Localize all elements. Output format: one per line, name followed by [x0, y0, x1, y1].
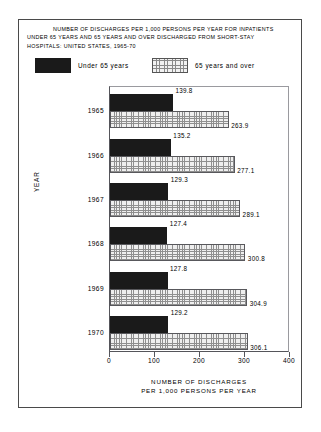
bar-value-label: 300.8 — [248, 256, 265, 262]
bar-value-label: 129.2 — [171, 310, 188, 316]
x-axis-title-line-1: NUMBER OF DISCHARGES — [109, 377, 289, 386]
bar-under-65 — [110, 227, 167, 244]
plot-area: 1965139.8263.91966135.2277.11967129.3289… — [109, 86, 289, 352]
x-axis-title-line-2: PER 1,000 PERSONS PER YEAR — [109, 386, 289, 395]
y-axis-tick-label: 1970 — [88, 330, 104, 337]
chart-title-line-1: NUMBER OF DISCHARGES PER 1,000 PERSONS P… — [27, 25, 295, 33]
x-axis-title: NUMBER OF DISCHARGES PER 1,000 PERSONS P… — [109, 377, 289, 395]
bar-65-and-over — [110, 244, 245, 261]
bar-value-label: 263.9 — [231, 123, 248, 129]
bar-65-and-over — [110, 200, 240, 217]
x-axis-tick-labels: 0100200300400 — [109, 358, 289, 367]
bar-under-65 — [110, 139, 171, 156]
x-axis-tick-label: 200 — [193, 358, 205, 365]
bar-under-65 — [110, 272, 168, 289]
bar-value-label: 289.1 — [243, 212, 260, 218]
y-axis-tick-label: 1966 — [88, 153, 104, 160]
bar-value-label: 139.8 — [175, 88, 192, 94]
x-axis-tick-label: 100 — [148, 358, 160, 365]
figure-frame: NUMBER OF DISCHARGES PER 1,000 PERSONS P… — [18, 19, 302, 408]
bar-value-label: 135.2 — [173, 133, 190, 139]
x-axis-tick-label: 0 — [107, 358, 111, 365]
bar-value-label: 127.4 — [170, 221, 187, 227]
legend-item-under-65: Under 65 years — [35, 57, 129, 74]
bar-value-label: 129.3 — [171, 177, 188, 183]
legend-label-under-65: Under 65 years — [78, 62, 129, 69]
bar-65-and-over — [110, 333, 248, 350]
legend-swatch-dotted-icon — [152, 58, 188, 73]
bar-65-and-over — [110, 289, 247, 306]
y-axis-title: YEAR — [34, 171, 40, 192]
y-axis-tick-label: 1967 — [88, 197, 104, 204]
bar-under-65 — [110, 316, 168, 333]
legend: Under 65 years 65 years and over — [35, 57, 293, 77]
bar-value-label: 304.9 — [250, 301, 267, 307]
y-axis-tick-label: 1968 — [88, 241, 104, 248]
bar-value-label: 127.8 — [170, 266, 187, 272]
bar-under-65 — [110, 94, 173, 111]
chart-title: NUMBER OF DISCHARGES PER 1,000 PERSONS P… — [27, 25, 295, 50]
bar-under-65 — [110, 183, 168, 200]
bar-value-label: 306.1 — [250, 345, 267, 351]
x-axis-tick-label: 300 — [238, 358, 250, 365]
y-axis-tick-label: 1965 — [88, 108, 104, 115]
chart-title-line-2: UNDER 65 YEARS AND 65 YEARS AND OVER DIS… — [27, 33, 295, 41]
y-axis-tick-label: 1969 — [88, 286, 104, 293]
legend-item-65-and-over: 65 years and over — [152, 57, 255, 74]
legend-label-65-and-over: 65 years and over — [195, 62, 255, 69]
bar-65-and-over — [110, 156, 235, 173]
legend-swatch-black-icon — [35, 58, 71, 73]
bar-value-label: 277.1 — [237, 168, 254, 174]
x-axis-tick-label: 400 — [283, 358, 295, 365]
bar-65-and-over — [110, 111, 229, 128]
chart-title-line-3: HOSPITALS: UNITED STATES, 1965-70 — [27, 42, 295, 50]
